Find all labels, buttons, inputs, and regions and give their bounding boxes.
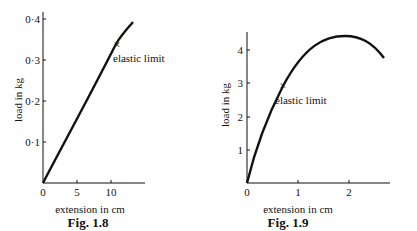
x-axis-label: extension in cm [55, 203, 125, 215]
y-tick-label: 0·4 [25, 13, 40, 25]
y-tick-label: 4 [238, 44, 244, 56]
y-tick-label: 0·3 [25, 54, 40, 66]
figure-caption: Fig. 1.9 [268, 215, 309, 230]
y-axis-label: load in kg [12, 78, 24, 122]
x-tick-label: 5 [74, 186, 80, 198]
x-tick-label: 1 [295, 186, 301, 198]
chart-fig-1-9: 1 2 3 4 0 1 2 extension in cm load in kg… [210, 0, 417, 231]
elastic-limit-marker: × [279, 78, 286, 93]
data-curve [247, 36, 384, 183]
y-tick-label: 0·1 [25, 136, 40, 148]
figure-1-9: 1 2 3 4 0 1 2 extension in cm load in kg… [210, 0, 417, 231]
figure-1-8: 0·1 0·2 0·3 0·4 0 5 10 extension in cm l… [0, 0, 205, 231]
elastic-limit-label: elastic limit [275, 94, 327, 106]
y-tick-label: 3 [238, 77, 244, 89]
x-tick-label: 0 [40, 186, 46, 198]
y-axis-label: load in kg [219, 83, 231, 127]
y-tick-label: 0·2 [25, 95, 40, 107]
figure-caption: Fig. 1.8 [68, 215, 109, 230]
chart-fig-1-8: 0·1 0·2 0·3 0·4 0 5 10 extension in cm l… [0, 0, 205, 231]
x-axis-label: extension in cm [263, 203, 333, 215]
y-tick-label: 2 [238, 111, 244, 123]
x-tick-label: 10 [106, 186, 118, 198]
x-tick-label: 0 [244, 186, 250, 198]
x-tick-label: 2 [346, 186, 352, 198]
y-tick-label: 1 [238, 144, 244, 156]
elastic-limit-label: elastic limit [113, 52, 165, 64]
elastic-limit-marker: × [113, 37, 120, 52]
